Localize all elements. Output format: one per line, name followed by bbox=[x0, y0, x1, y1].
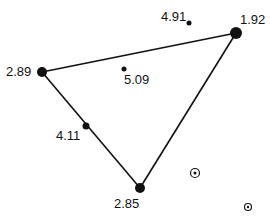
edge-2.89-1.92 bbox=[42, 33, 236, 72]
point-dot-5.09 bbox=[122, 67, 127, 72]
target-marker-icon bbox=[245, 204, 252, 211]
vertex-dot-1.92 bbox=[230, 27, 242, 39]
point-dot-4.91 bbox=[187, 21, 192, 26]
vertex-dot-2.89 bbox=[37, 67, 47, 77]
point-label-5.09: 5.09 bbox=[124, 72, 149, 87]
vertex-dot-2.85 bbox=[135, 183, 145, 193]
point-label-4.91: 4.91 bbox=[161, 9, 186, 24]
edge-1.92-2.85 bbox=[140, 33, 236, 188]
edge-point-label-4.11: 4.11 bbox=[56, 128, 80, 143]
vertex-label-1.92: 1.92 bbox=[240, 12, 265, 27]
target-marker-icon bbox=[191, 169, 200, 178]
diagram-canvas: 2.89 1.92 2.85 4.11 4.91 5.09 bbox=[0, 0, 270, 221]
vertex-label-2.89: 2.89 bbox=[6, 64, 31, 79]
edge-point-dot-4.11 bbox=[83, 123, 90, 130]
vertex-label-2.85: 2.85 bbox=[114, 196, 139, 211]
